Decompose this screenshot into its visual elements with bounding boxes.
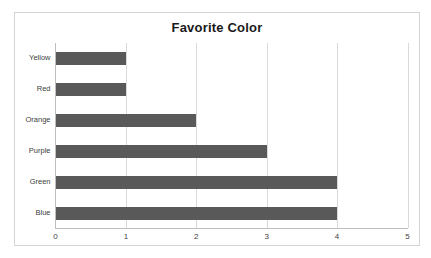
bar-row: Green [56, 167, 408, 198]
bar-orange[interactable] [56, 114, 197, 127]
bar-red[interactable] [56, 83, 126, 96]
gridline-x-5 [408, 43, 409, 228]
chart-title: Favorite Color [15, 20, 419, 35]
bar-row: Purple [56, 136, 408, 167]
bar-yellow[interactable] [56, 52, 126, 65]
bar-row: Orange [56, 105, 408, 136]
category-label-orange: Orange [25, 113, 50, 127]
bar-row: Blue [56, 198, 408, 229]
x-axis-tick-label: 1 [124, 232, 128, 241]
bar-blue[interactable] [56, 207, 338, 220]
category-label-purple: Purple [29, 144, 51, 158]
plot-area: 012345YellowRedOrangePurpleGreenBlue [55, 43, 408, 229]
chart-container: Favorite Color 012345YellowRedOrangePurp… [14, 12, 420, 246]
bar-row: Red [56, 74, 408, 105]
bar-row: Yellow [56, 43, 408, 74]
x-axis-tick-label: 4 [335, 232, 339, 241]
bar-purple[interactable] [56, 145, 267, 158]
category-label-red: Red [37, 82, 51, 96]
x-axis-tick-label: 5 [405, 232, 409, 241]
x-axis-tick-label: 2 [194, 232, 198, 241]
category-label-green: Green [30, 175, 51, 189]
bar-green[interactable] [56, 176, 338, 189]
category-label-blue: Blue [35, 206, 50, 220]
x-axis-tick-label: 0 [53, 232, 57, 241]
x-axis-tick-label: 3 [264, 232, 268, 241]
category-label-yellow: Yellow [29, 51, 50, 65]
